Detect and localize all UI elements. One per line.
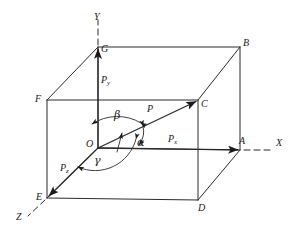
axis-label-y: Y <box>94 12 100 22</box>
vector-label-Px-sub: x <box>174 138 177 146</box>
diagram-canvas <box>0 0 292 235</box>
axis-extensions <box>28 20 272 216</box>
angle-label-gamma: γ <box>94 155 101 166</box>
vertex-label-D: D <box>198 203 205 213</box>
edge-E-D <box>47 198 198 200</box>
box-edges <box>47 47 240 200</box>
vertex-label-E: E <box>36 192 42 202</box>
vector-label-Px: Px <box>168 134 177 146</box>
vertex-label-G: G <box>101 44 108 54</box>
axis-label-x: X <box>276 138 282 148</box>
axis-label-z: Z <box>16 212 22 222</box>
vector-arrows <box>49 49 238 196</box>
vertex-label-A: A <box>239 136 245 146</box>
edge-D-A <box>198 150 240 200</box>
angle-gamma-pointer <box>117 133 122 152</box>
vertex-label-B: B <box>243 38 249 48</box>
angle-label-alpha: α <box>137 137 144 148</box>
vector-label-Py-sub: y <box>107 79 110 87</box>
vector-label-Py: Py <box>101 75 110 87</box>
vector-label-Pz-sub: z <box>66 167 69 175</box>
vector-Pz-arrow <box>49 148 98 196</box>
vertex-label-O: O <box>86 139 93 149</box>
vector-label-Pz: Pz <box>60 163 69 175</box>
vertex-label-C: C <box>201 99 208 109</box>
vector-Px-arrow <box>98 148 238 150</box>
edge-G-F <box>47 47 98 100</box>
vector-label-P-text: P <box>147 103 153 114</box>
vertex-label-F: F <box>35 94 41 104</box>
edge-B-C <box>198 47 240 100</box>
vector-label-P: P <box>147 104 153 114</box>
axis-z-dash <box>28 200 45 216</box>
vector-diagram-figure: Y X Z G B F C O A E D P Px Py Pz α β γ <box>0 0 292 235</box>
angle-label-beta: β <box>114 110 120 121</box>
